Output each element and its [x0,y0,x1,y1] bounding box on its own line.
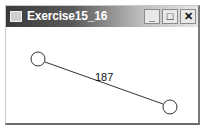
draggable-circle-2[interactable] [163,100,177,114]
maximize-button[interactable]: □ [162,9,178,24]
drawing-canvas[interactable]: 187 [6,27,198,123]
minimize-button[interactable]: _ [144,9,160,24]
app-window: Exercise15_16 _ □ ✕ 187 [5,5,200,125]
connecting-line [45,62,163,104]
distance-label: 187 [95,71,113,83]
app-icon[interactable] [10,11,22,22]
close-button[interactable]: ✕ [180,9,196,24]
title-bar[interactable]: Exercise15_16 _ □ ✕ [6,6,198,27]
draggable-circle-1[interactable] [31,52,45,66]
window-title: Exercise15_16 [27,9,107,23]
